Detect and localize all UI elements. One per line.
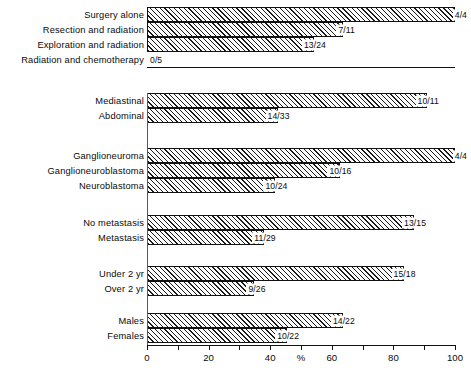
category-label: Metastasis [98,233,144,243]
bar-value-label: 10/24 [263,180,289,191]
bar-value-label: 10/22 [275,330,301,341]
bar-value-label: 13/24 [302,39,328,50]
survival-bar-chart: Surgery aloneResection and radiationExpl… [0,0,471,374]
bar-value-label: 4/4 [453,9,469,20]
category-label: Under 2 yr [99,269,144,279]
x-axis-tick-label: 80 [388,353,399,363]
y-axis-spine [147,93,148,345]
x-axis-tick [393,345,394,350]
category-label: Over 2 yr [104,284,144,294]
bar [147,230,264,245]
category-label: Ganglioneuroblastoma [47,166,144,176]
bar [147,93,427,108]
x-axis-tick-label: 100 [447,353,463,363]
bar-value-label: 4/4 [453,150,469,161]
x-axis-unit-label: % [297,353,306,363]
category-label: Exploration and radiation [37,40,144,50]
category-label: Radiation and chemotherapy [21,55,144,65]
category-label: Resection and radiation [43,25,144,35]
category-label: Ganglioneuroma [73,151,144,161]
bar [147,178,275,193]
category-label: Surgery alone [84,10,144,20]
bar [147,266,404,281]
x-axis-tick [239,345,240,350]
plot-area: 4/47/1113/240/510/1114/334/410/1610/2413… [147,0,471,374]
bar-value-label: 10/16 [327,165,353,176]
x-axis-tick [270,345,271,350]
bar-value-label: 13/15 [402,217,428,228]
category-label: Abdominal [99,111,144,121]
category-label-column: Surgery aloneResection and radiationExpl… [0,0,146,374]
x-axis-tick [332,345,333,350]
bar-value-label: 10/11 [416,95,441,106]
bar [147,52,148,67]
category-label: Neuroblastoma [79,181,144,191]
bar-value-label: 9/26 [246,283,267,294]
bar [147,108,278,123]
category-label: Mediastinal [95,96,144,106]
bar [147,22,343,37]
group-separator-rule [147,67,455,68]
x-axis-tick-label: 20 [203,353,214,363]
bar [147,328,287,343]
x-axis-tick [455,345,456,350]
bar [147,215,414,230]
bar-value-label: 14/22 [331,315,357,326]
bar [147,281,254,296]
x-axis-tick [147,345,148,350]
x-axis-tick [178,345,179,350]
x-axis-tick [363,345,364,350]
bar [147,7,455,22]
bar [147,148,455,163]
x-axis-tick [424,345,425,350]
x-axis-tick-label: 0 [144,353,149,363]
bar-value-label: 11/29 [252,232,277,243]
x-axis-tick [301,345,302,350]
bar [147,37,314,52]
category-label: Females [107,331,144,341]
x-axis-tick-label: 40 [265,353,276,363]
bar-value-label: 14/33 [266,110,292,121]
bar-value-label: 0/5 [150,54,164,65]
category-label: No metastasis [83,218,144,228]
bar [147,313,343,328]
x-axis-tick-label: 60 [326,353,337,363]
bar-value-label: 15/18 [392,268,418,279]
category-label: Males [118,316,144,326]
bar [147,163,340,178]
x-axis-tick [209,345,210,350]
bar-value-label: 7/11 [336,24,357,35]
